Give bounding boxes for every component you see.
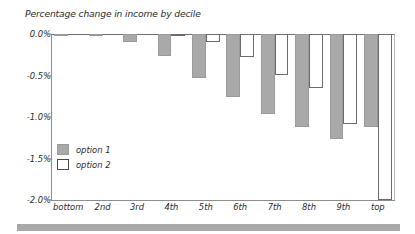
bar-4th-option-1 — [158, 34, 172, 56]
bar-9th-option-1 — [330, 34, 344, 139]
chart-legend: option 1 option 2 — [57, 142, 141, 172]
x-tick-label-4th: 4th — [164, 202, 178, 212]
x-tick-label-7th: 7th — [268, 202, 282, 212]
chart-title: Percentage change in income by decile — [25, 8, 201, 19]
bars-layer — [51, 34, 395, 200]
legend-item-option-2: option 2 — [57, 157, 141, 172]
y-tick-label: 0.0% — [7, 29, 51, 39]
bar-8th-option-1 — [295, 34, 309, 127]
bar-bottom-option-1 — [54, 34, 68, 36]
bar-top-option-1 — [364, 34, 378, 127]
y-tick-label: -0.5% — [7, 71, 51, 81]
bar-2nd-option-1 — [89, 34, 103, 36]
y-axis: 0.0%-0.5%-1.0%-1.5%-2.0% — [0, 0, 51, 234]
legend-label-option-1: option 1 — [76, 145, 110, 155]
y-tick-label: -1.0% — [7, 112, 51, 122]
x-tick-label-5th: 5th — [199, 202, 213, 212]
bar-5th-option-1 — [192, 34, 206, 78]
bar-top-option-2 — [378, 34, 392, 200]
legend-swatch-option-1 — [57, 144, 69, 155]
legend-label-option-2: option 2 — [76, 160, 110, 170]
x-tick-label-3rd: 3rd — [130, 202, 144, 212]
bar-7th-option-2 — [275, 34, 289, 75]
y-tick-label: -1.5% — [7, 154, 51, 164]
bar-9th-option-2 — [343, 34, 357, 124]
bar-6th-option-2 — [240, 34, 254, 57]
legend-item-option-1: option 1 — [57, 142, 141, 157]
bar-7th-option-1 — [261, 34, 275, 114]
x-tick-label-top: top — [371, 202, 385, 212]
footer-band — [17, 224, 400, 231]
x-tick-label-8th: 8th — [302, 202, 316, 212]
y-tick-label: -2.0% — [7, 195, 51, 205]
bar-6th-option-1 — [226, 34, 240, 97]
legend-swatch-option-2 — [57, 159, 69, 170]
bar-5th-option-2 — [206, 34, 220, 42]
x-tick-label-2nd: 2nd — [95, 202, 111, 212]
x-tick-label-9th: 9th — [336, 202, 350, 212]
x-tick-label-6th: 6th — [233, 202, 247, 212]
chart-figure: Percentage change in income by decile 0.… — [0, 0, 415, 234]
bar-8th-option-2 — [309, 34, 323, 88]
x-axis: bottom2nd3rd4th5th6th7th8th9thtop — [51, 202, 395, 220]
x-tick-label-bottom: bottom — [53, 202, 83, 212]
bar-4th-option-2 — [171, 34, 185, 36]
bar-3rd-option-1 — [123, 34, 137, 42]
